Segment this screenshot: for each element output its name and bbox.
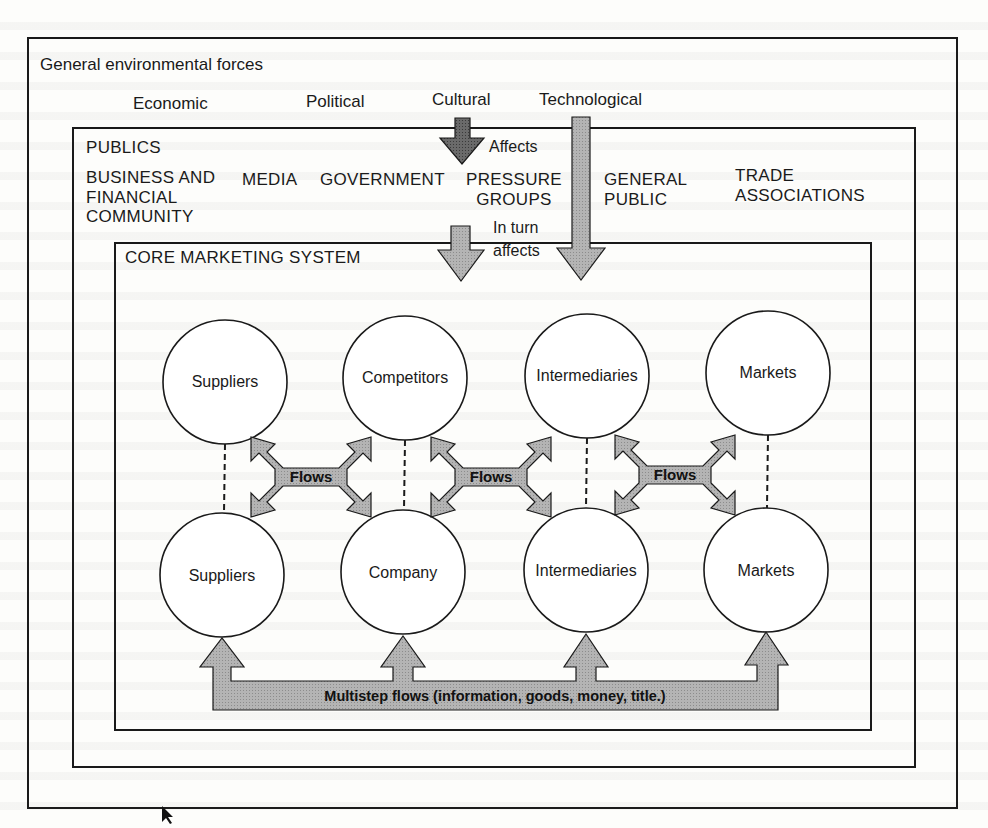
affects-label-2: affects xyxy=(493,242,540,260)
public-business-line1: BUSINESS AND xyxy=(86,168,215,188)
public-general-line1: GENERAL xyxy=(604,170,687,190)
force-economic: Economic xyxy=(133,94,208,114)
affects-label: Affects xyxy=(489,138,538,156)
public-trade-associations: TRADE ASSOCIATIONS xyxy=(735,166,865,205)
public-pressure-line2: GROUPS xyxy=(466,190,562,210)
public-trade-line2: ASSOCIATIONS xyxy=(735,186,865,206)
environment-title: General environmental forces xyxy=(40,55,263,75)
dashed-link-markets xyxy=(767,435,768,508)
public-general-public: GENERAL PUBLIC xyxy=(604,170,687,209)
force-technological: Technological xyxy=(539,90,642,110)
public-business-line3: COMMUNITY xyxy=(86,207,215,227)
label-suppliers-bottom: Suppliers xyxy=(189,567,256,585)
core-marketing-title: CORE MARKETING SYSTEM xyxy=(125,248,361,268)
label-markets-top: Markets xyxy=(740,364,797,382)
in-turn-label: In turn xyxy=(493,219,538,237)
technological-arrow xyxy=(557,117,605,280)
public-pressure-groups: PRESSURE GROUPS xyxy=(466,170,562,209)
public-media: MEDIA xyxy=(242,170,297,190)
public-pressure-line1: PRESSURE xyxy=(466,170,562,190)
label-intermediaries-top: Intermediaries xyxy=(536,367,637,385)
dashed-link-intermediaries xyxy=(586,438,587,508)
label-competitors: Competitors xyxy=(362,369,448,387)
label-company: Company xyxy=(369,564,437,582)
dashed-link-competitors-company xyxy=(404,440,405,510)
public-government: GOVERNMENT xyxy=(320,170,445,190)
flows-label-3: Flows xyxy=(654,466,697,483)
flows-label-2: Flows xyxy=(470,468,513,485)
label-suppliers-top: Suppliers xyxy=(192,373,259,391)
public-trade-line1: TRADE xyxy=(735,166,865,186)
affects-arrow xyxy=(440,118,484,164)
public-business-financial: BUSINESS AND FINANCIAL COMMUNITY xyxy=(86,168,215,227)
dashed-link-suppliers xyxy=(224,444,225,513)
force-political: Political xyxy=(306,92,365,112)
multistep-flows-label: Multistep flows (information, goods, mon… xyxy=(324,688,665,705)
label-markets-bottom: Markets xyxy=(738,562,795,580)
public-general-line2: PUBLIC xyxy=(604,190,687,210)
label-intermediaries-bottom: Intermediaries xyxy=(535,562,636,580)
flows-label-1: Flows xyxy=(290,468,333,485)
public-business-line2: FINANCIAL xyxy=(86,188,215,208)
force-cultural: Cultural xyxy=(432,90,491,110)
in-turn-affects-arrow xyxy=(438,226,484,281)
publics-title: PUBLICS xyxy=(86,138,161,158)
